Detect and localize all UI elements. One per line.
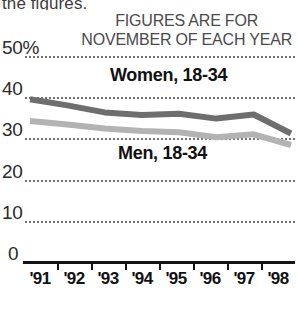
x-axis-label-96: '96 — [193, 269, 227, 289]
x-axis-label-97: '97 — [227, 269, 261, 289]
x-axis-label-94: '94 — [125, 269, 159, 289]
x-axis-label-98: '98 — [261, 269, 295, 289]
x-axis-label-91: '91 — [23, 269, 57, 289]
x-axis-label-93: '93 — [91, 269, 125, 289]
series-label-men: Men, 18-34 — [118, 143, 207, 164]
x-axis-labels: '91'92'93'94'95'96'97'98 — [23, 269, 295, 289]
line-men — [30, 121, 291, 145]
x-axis-label-92: '92 — [57, 269, 91, 289]
plot-area: 50% 40 30 20 10 0 Women, 18-34 Men, 18-3… — [0, 0, 298, 323]
x-axis-label-95: '95 — [159, 269, 193, 289]
chart-container: the figures. FIGURES ARE FOR NOVEMBER OF… — [0, 0, 298, 323]
series-label-women: Women, 18-34 — [110, 65, 227, 86]
line-women — [30, 99, 291, 133]
